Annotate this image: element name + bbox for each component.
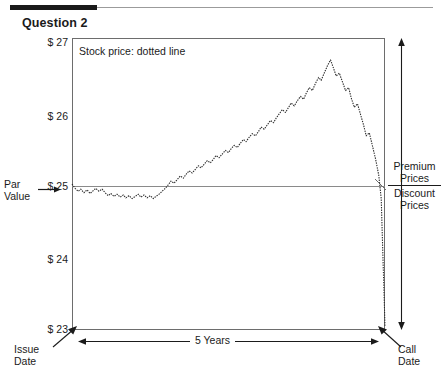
call-date-label-line2: Date bbox=[398, 356, 438, 368]
header-rule-line bbox=[97, 7, 433, 8]
time-span-label: 5 Years bbox=[190, 334, 235, 346]
issue-date-label-line2: Date bbox=[14, 356, 60, 368]
premium-discount-divider bbox=[388, 185, 441, 186]
page-title: Question 2 bbox=[22, 16, 88, 30]
call-date-label-line1: Call bbox=[398, 344, 438, 356]
y-axis-tick-27: $ 27 bbox=[24, 36, 68, 48]
y-axis-tick-24: $ 24 bbox=[24, 253, 68, 265]
par-value-label: Par Value bbox=[4, 179, 38, 202]
issue-date-label: Issue Date bbox=[14, 344, 60, 367]
stock-price-series bbox=[72, 38, 385, 330]
par-value-label-line2: Value bbox=[4, 191, 38, 203]
premium-label-line1: Premium bbox=[386, 160, 443, 172]
discount-label-line2: Prices bbox=[386, 199, 443, 211]
header-rule-accent bbox=[10, 5, 97, 10]
premium-label-line2: Prices bbox=[386, 172, 443, 184]
call-date-label: Call Date bbox=[398, 344, 438, 367]
discount-label-line1: Discount bbox=[386, 187, 443, 199]
par-value-label-line1: Par bbox=[4, 179, 38, 191]
premium-discount-labels: Premium Prices Discount Prices bbox=[386, 160, 443, 211]
y-axis-tick-26: $ 26 bbox=[24, 110, 68, 122]
par-value-arrow-icon bbox=[38, 185, 62, 194]
issue-date-label-line1: Issue bbox=[14, 344, 60, 356]
